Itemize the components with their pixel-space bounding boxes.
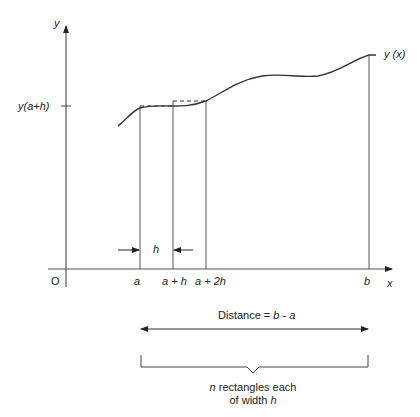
bracket-caption-line1: n rectangles each (203, 381, 303, 394)
h-width-label: h (153, 244, 159, 255)
diagram-canvas: y x O y(a+h) y (x) a a + h a + 2h b h Di… (0, 0, 420, 417)
curve-y-of-x (118, 55, 376, 126)
y-tick-label: y(a+h) (18, 101, 50, 112)
diagram-graphics (0, 0, 420, 417)
x-axis-label: x (387, 278, 393, 289)
x-tick-label-b: b (364, 276, 370, 287)
curve-label: y (x) (384, 49, 405, 60)
distance-expression: b - a (273, 309, 295, 321)
x-tick-label-a-plus-h: a + h (162, 276, 187, 287)
origin-label: O (51, 276, 60, 287)
x-tick-label-a-plus-2h: a + 2h (195, 276, 226, 287)
distance-label: Distance = b - a (218, 310, 295, 321)
x-tick-label-a: a (134, 276, 140, 287)
bracket (141, 355, 368, 373)
y-axis-label: y (54, 18, 60, 29)
bracket-caption-line2: of width h (203, 394, 303, 407)
caption-h-var: h (270, 394, 276, 406)
caption-line1-text: rectangles each (216, 381, 297, 393)
distance-arrow-left-head (140, 326, 148, 332)
bracket-caption: n rectangles each of width h (203, 381, 303, 407)
caption-line2-text: of width (229, 394, 270, 406)
distance-prefix: Distance = (218, 309, 273, 321)
